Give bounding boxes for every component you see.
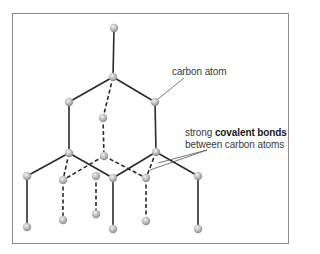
carbon-atom bbox=[59, 176, 67, 184]
bond-line bbox=[113, 28, 114, 77]
bond-line bbox=[155, 102, 156, 152]
carbon-atom bbox=[23, 172, 31, 180]
pointer-line bbox=[158, 78, 184, 99]
label-pointers bbox=[150, 78, 207, 170]
covalent-bonds-line2: between carbon atoms bbox=[185, 139, 287, 151]
carbon-atom bbox=[110, 24, 118, 32]
back-bond-line bbox=[103, 118, 104, 156]
carbon-atom-label: carbon atom bbox=[172, 66, 227, 78]
carbon-atom bbox=[152, 148, 160, 156]
carbon-atom bbox=[99, 114, 107, 122]
carbon-atom bbox=[23, 223, 31, 231]
carbon-atom bbox=[109, 73, 117, 81]
covalent-bonds-label: strong covalent bonds between carbon ato… bbox=[185, 127, 287, 151]
covalent-bonds-line1: strong covalent bonds bbox=[185, 127, 287, 139]
carbon-atom bbox=[109, 174, 117, 182]
carbon-atom bbox=[92, 172, 100, 180]
carbon-atom bbox=[142, 174, 150, 182]
carbon-atom bbox=[151, 98, 159, 106]
bond-line bbox=[69, 77, 113, 102]
bond-line bbox=[113, 77, 155, 102]
back-bond-line bbox=[103, 77, 113, 118]
carbon-atom bbox=[65, 149, 73, 157]
carbon-atom bbox=[194, 172, 202, 180]
carbon-atom bbox=[92, 210, 100, 218]
carbon-atom bbox=[194, 225, 202, 233]
back-bond-line bbox=[104, 156, 146, 178]
carbon-atom bbox=[142, 217, 150, 225]
covalent-bonds bbox=[27, 28, 198, 229]
carbon-atom bbox=[100, 152, 108, 160]
carbon-atom bbox=[65, 98, 73, 106]
bond-line bbox=[27, 153, 69, 176]
carbon-atom bbox=[109, 225, 117, 233]
carbon-atom bbox=[59, 216, 67, 224]
bond-line bbox=[113, 152, 156, 178]
